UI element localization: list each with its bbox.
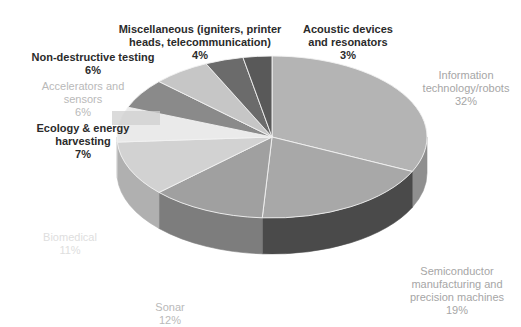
label-acoustic-devices: Acoustic devices and resonators 3%: [288, 10, 408, 75]
label-semiconductor-manufacturing-pct: 19%: [394, 304, 520, 317]
label-biomedical-pct: 11%: [20, 244, 120, 257]
label-acoustic-devices-pct: 3%: [288, 49, 408, 62]
label-miscellaneous-pct: 4%: [110, 49, 290, 62]
label-semiconductor-manufacturing-name: Semiconductor manufacturing and precisio…: [410, 265, 504, 303]
label-miscellaneous-name: Miscellaneous (igniters, printer heads, …: [119, 23, 282, 48]
label-ecology-energy-harvesting-name: Ecology & energy harvesting: [37, 122, 130, 147]
label-sonar-pct: 12%: [130, 314, 210, 327]
label-information-technology-robots: Information technology/robots 32%: [412, 56, 520, 121]
label-acoustic-devices-name: Acoustic devices and resonators: [303, 23, 393, 48]
label-miscellaneous: Miscellaneous (igniters, printer heads, …: [110, 10, 290, 75]
label-accelerators-and-sensors-name: Accelerators and sensors: [42, 80, 125, 105]
pie-chart: Non-destructive testing 6% Accelerators …: [0, 0, 521, 327]
label-ecology-energy-harvesting: Ecology & energy harvesting 7%: [5, 109, 161, 174]
label-semiconductor-manufacturing: Semiconductor manufacturing and precisio…: [394, 252, 520, 327]
label-information-technology-robots-name: Information technology/robots: [423, 69, 510, 94]
label-sonar-name: Sonar: [155, 301, 184, 313]
label-biomedical-name: Biomedical: [43, 231, 97, 243]
label-ecology-energy-harvesting-pct: 7%: [5, 148, 161, 161]
label-information-technology-robots-pct: 32%: [412, 95, 520, 108]
label-sonar: Sonar 12%: [130, 288, 210, 327]
label-biomedical: Biomedical 11%: [20, 218, 120, 270]
